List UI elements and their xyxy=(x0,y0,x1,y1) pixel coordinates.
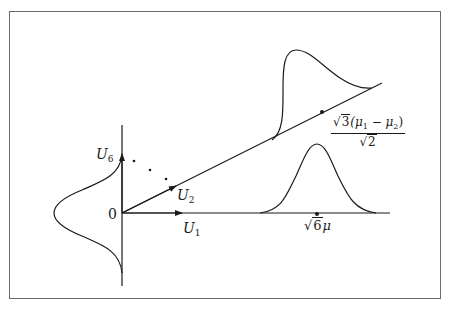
horizontal-mean-label: √6μ xyxy=(304,219,331,232)
u6-label: U6 xyxy=(96,147,114,164)
ellipsis-dot-1 xyxy=(133,160,136,163)
u1-sub: 1 xyxy=(195,228,201,238)
numerator-mu2: − μ xyxy=(368,115,393,129)
u1-label: U1 xyxy=(183,221,201,238)
numerator-close: ) xyxy=(398,115,403,129)
u2-sub: 2 xyxy=(189,195,195,205)
u2-base: U xyxy=(177,187,189,203)
numerator-mu1: (μ xyxy=(350,115,362,129)
u2-arrow xyxy=(122,186,176,213)
origin-label: 0 xyxy=(108,207,117,221)
u1-base: U xyxy=(183,220,195,236)
u6-base: U xyxy=(96,146,108,162)
u2-label: U2 xyxy=(177,188,195,205)
ellipsis-dot-2 xyxy=(149,169,152,172)
horizontal-mean-sqrt: 6 xyxy=(312,217,322,233)
oblique-mean-numerator: √3(μ1 − μ2) xyxy=(331,115,405,134)
horizontal-bell-curve xyxy=(260,144,376,213)
horizontal-mean-mu: μ xyxy=(323,218,331,233)
denominator-sqrt: 2 xyxy=(367,134,377,149)
oblique-mean-point xyxy=(320,110,324,114)
u6-sub: 6 xyxy=(108,154,114,164)
diagram-canvas xyxy=(0,0,452,309)
horizontal-mean-point xyxy=(315,212,319,216)
origin-text: 0 xyxy=(108,206,117,222)
numerator-sqrt: 3 xyxy=(341,114,351,129)
ellipsis-dot-3 xyxy=(165,178,168,181)
oblique-mean-denominator: √2 xyxy=(331,134,405,149)
oblique-mean-label: √3(μ1 − μ2) √2 xyxy=(331,115,405,149)
